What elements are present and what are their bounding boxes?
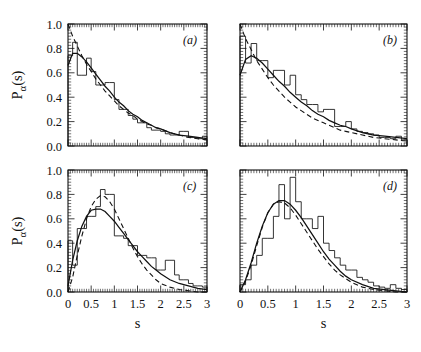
yaxis-title-c: Pα(s) (9, 216, 28, 245)
panel-d-dashed-reference-curve (240, 202, 407, 292)
ytick-label-c-1: 0.2 (46, 261, 62, 275)
yaxis-title-a: Pα(s) (9, 70, 28, 99)
panel-b-label: (b) (383, 33, 397, 47)
xtick-label-c-3: 1.5 (130, 297, 146, 311)
ytick-label-c-2: 0.4 (46, 237, 62, 251)
xtick-label-c-5: 2.5 (176, 297, 192, 311)
panel-c-label: (c) (183, 179, 196, 193)
xtick-label-d-1: 0.5 (260, 297, 276, 311)
panel-a-solid-fit-curve (68, 53, 207, 138)
panel-d-label: (d) (383, 179, 397, 193)
panel-c-histogram (68, 190, 207, 292)
xtick-label-d-0: 0 (237, 297, 243, 311)
ytick-label-a-0: 0.0 (46, 140, 62, 154)
four-panel-spacing-distribution-figure: (a)(b)(c)(d)0.00.20.40.60.81.00.00.20.40… (0, 0, 421, 352)
panel-b-solid-fit-curve (240, 56, 407, 139)
xaxis-title-c: s (135, 315, 141, 331)
xtick-label-c-4: 2 (158, 297, 164, 311)
xtick-label-d-2: 1 (293, 297, 299, 311)
panel-a-histogram (68, 42, 207, 146)
ytick-label-c-5: 1.0 (46, 164, 62, 178)
xtick-label-c-0: 0 (65, 297, 71, 311)
ytick-label-a-1: 0.2 (46, 115, 62, 129)
xtick-label-c-2: 1 (111, 297, 117, 311)
panel-b-dashed-reference-curve (240, 24, 407, 141)
ytick-label-c-0: 0.0 (46, 286, 62, 300)
panel-b-histogram (240, 36, 407, 146)
xtick-label-d-5: 2.5 (371, 297, 387, 311)
xaxis-title-d: s (321, 315, 327, 331)
ytick-label-c-4: 0.8 (46, 188, 62, 202)
ytick-label-a-4: 0.8 (46, 42, 62, 56)
xtick-label-d-6: 3 (404, 297, 410, 311)
figure-container: (a)(b)(c)(d)0.00.20.40.60.81.00.00.20.40… (0, 0, 421, 352)
panel-b-frame (240, 24, 407, 146)
ytick-label-a-3: 0.6 (46, 66, 62, 80)
ytick-label-a-5: 1.0 (46, 18, 62, 32)
ytick-label-a-2: 0.4 (46, 91, 62, 105)
xtick-label-c-6: 3 (204, 297, 210, 311)
xtick-label-d-3: 1.5 (316, 297, 332, 311)
panel-d-solid-fit-curve (240, 201, 407, 293)
xtick-label-c-1: 0.5 (83, 297, 99, 311)
panel-a-label: (a) (183, 33, 197, 47)
xtick-label-d-4: 2 (348, 297, 354, 311)
panel-d-histogram (240, 177, 407, 292)
panel-c-dashed-reference-curve (68, 196, 207, 292)
ytick-label-c-3: 0.6 (46, 212, 62, 226)
